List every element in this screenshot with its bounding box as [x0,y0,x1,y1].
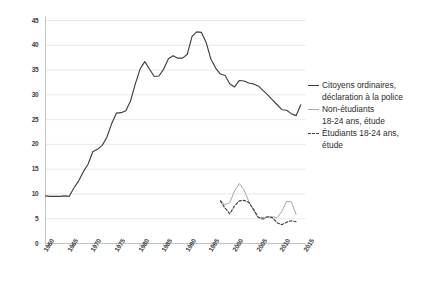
series-line-1 [220,184,296,220]
y-tick-label: 30 [23,91,39,98]
series-lines [46,32,301,225]
legend-item: Non-étudiants18-24 ans, étude [308,104,444,127]
legend-marker-line-icon [308,133,319,134]
gridlines [46,21,306,219]
legend-item: Étudiants 18-24 ans,étude [308,128,444,151]
y-tick-label: 0 [23,240,39,247]
y-tick-label: 40 [23,41,39,48]
chart-figure: 051015202530354045 196019651970197519801… [0,0,444,281]
legend-item-label: Non-étudiants18-24 ans, étude [322,104,444,127]
legend-marker-line-icon [308,109,319,110]
legend-marker-line-icon [308,85,319,86]
y-tick-label: 25 [23,116,39,123]
series-line-0 [46,32,301,197]
y-tick-label: 35 [23,66,39,73]
axis-lines [46,17,306,244]
y-tick-label: 10 [23,190,39,197]
series-line-2 [220,200,296,224]
y-tick-label: 5 [23,215,39,222]
chart-legend: Citoyens ordinaires,déclaration à la pol… [308,80,444,153]
legend-item-label: Citoyens ordinaires,déclaration à la pol… [322,80,444,103]
y-tick-label: 45 [23,17,39,24]
legend-item-label: Étudiants 18-24 ans,étude [322,128,444,151]
y-tick-label: 15 [23,165,39,172]
legend-item: Citoyens ordinaires,déclaration à la pol… [308,80,444,103]
y-tick-label: 20 [23,140,39,147]
